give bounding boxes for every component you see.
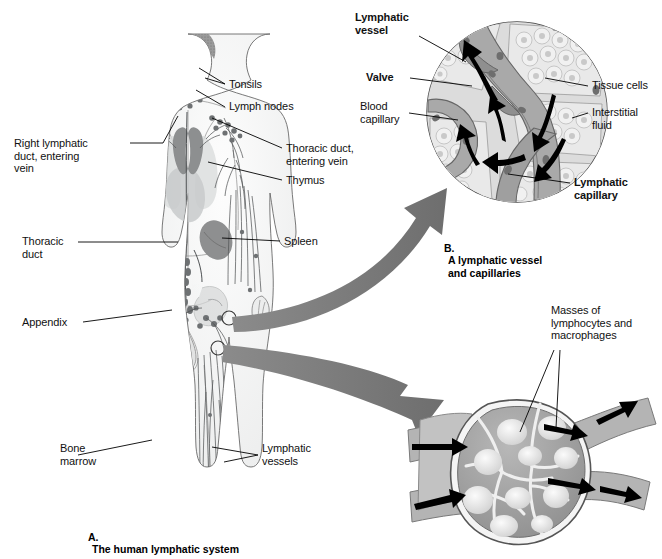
label-masses-of-lymphocytes-macrophages: Masses of lymphocytes and macrophages [551,304,632,342]
bone-marrow-distal [145,489,167,505]
appendix-organ [167,306,177,319]
panel-b-caption: B. A lymphatic vessel and capillaries [444,229,542,279]
tonsil-nodes [175,58,200,79]
label-lymphatic-vessel: Lymphatic vessel [355,11,409,36]
label-lymphatic-capillary: Lymphatic capillary [574,176,628,201]
face-features [164,44,200,80]
label-lymph-nodes: Lymph nodes [229,100,294,113]
panel-b-caption-text: A lymphatic vessel and capillaries [448,254,542,279]
bone-marrow-shaft [147,349,164,467]
femur-bone [144,340,171,516]
label-right-lymphatic-duct: Right lymphatic duct, entering vein [14,137,126,175]
figure-canvas [0,0,662,559]
label-thymus: Thymus [286,174,325,187]
label-appendix: Appendix [22,316,67,329]
lymph-vessels-left-leg [144,350,178,490]
label-interstitial-fluid: Interstitial fluid [592,106,638,131]
label-tonsils: Tonsils [229,78,262,91]
label-spleen: Spleen [284,235,318,248]
label-lymphatic-vessels: Lymphatic vessels [262,442,311,467]
label-bone-marrow: Bone marrow [60,442,96,467]
panel-b-caption-letter: B. [444,242,455,254]
label-valve: Valve [366,71,394,84]
label-thoracic-duct-entering-vein: Thoracic duct, entering vein [286,142,354,167]
lymphatic-system-figure: Tonsils Lymph nodes Right lymphatic duct… [0,0,662,559]
label-tissue-cells: Tissue cells [592,79,648,92]
hair [166,28,216,63]
panel-a-caption-text: The human lymphatic system [92,543,239,555]
label-thoracic-duct: Thoracic duct [22,235,63,260]
label-blood-capillary: Blood capillary [360,100,399,125]
facial-vessels [177,63,197,80]
panel-a-caption-letter: A. [88,531,99,543]
panel-c-lymph-node-illustration [408,350,656,544]
panel-a-caption: A. The human lymphatic system [88,518,239,556]
